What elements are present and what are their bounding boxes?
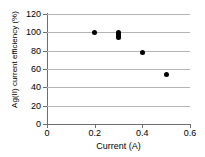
y-axis-tick-mark (43, 106, 47, 107)
gridline-horizontal (47, 87, 190, 88)
y-axis-tick-label: 20 (1, 102, 41, 111)
y-axis-tick-mark (43, 87, 47, 88)
y-axis-tick-label: 100 (1, 28, 41, 37)
gridline-horizontal (47, 14, 190, 15)
x-axis-line (47, 124, 190, 125)
y-axis-tick-label: 80 (1, 47, 41, 56)
gridline-horizontal (47, 106, 190, 107)
plot-area (47, 14, 190, 124)
x-axis-tick-label: 0.4 (122, 128, 162, 138)
data-point (92, 30, 97, 35)
y-axis-tick-mark (43, 32, 47, 33)
y-axis-tick-label: 120 (1, 10, 41, 19)
x-axis-tick-label: 0.2 (75, 128, 115, 138)
y-axis-tick-mark (43, 69, 47, 70)
x-axis-title: Current (A) (47, 141, 190, 151)
y-axis-tick-mark (43, 51, 47, 52)
x-axis-tick-label: 0.6 (170, 128, 205, 138)
x-axis-tick-label: 0 (27, 128, 67, 138)
y-axis-tick-label: 40 (1, 83, 41, 92)
gridline-horizontal (47, 69, 190, 70)
data-point (140, 50, 145, 55)
gridline-horizontal (47, 51, 190, 52)
data-point (164, 72, 169, 77)
chart-figure: Ag(II) current efficiency (%) 0204060801… (0, 0, 205, 157)
data-point (116, 35, 121, 40)
y-axis-tick-label: 60 (1, 65, 41, 74)
y-axis-tick-mark (43, 14, 47, 15)
